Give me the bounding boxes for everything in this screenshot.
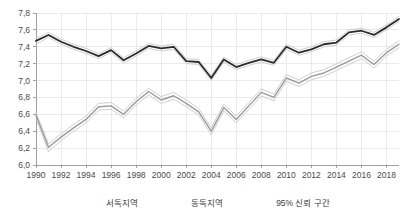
legend-item-west: 서독지역 (75, 196, 138, 208)
x-tick-label: 1994 (77, 170, 96, 180)
y-tick-label: 7,4 (18, 42, 30, 52)
x-axis-tick-labels: 1990199219941996199820002002200420062008… (27, 170, 397, 180)
x-tick-label: 2016 (352, 170, 371, 180)
confidence-bound-east-upper (36, 41, 399, 144)
x-tick-label: 1996 (102, 170, 121, 180)
x-tick-label: 2000 (152, 170, 171, 180)
legend-item-east: 동독지역 (160, 196, 223, 208)
legend-label-east: 동독지역 (191, 196, 223, 208)
y-tick-label: 6,0 (18, 160, 30, 170)
chart-legend: 서독지역 동독지역 95% 신뢰 구간 (0, 196, 405, 208)
x-tick-label: 1998 (127, 170, 146, 180)
y-tick-label: 6,6 (18, 109, 30, 119)
y-tick-label: 6,4 (18, 126, 30, 136)
y-tick-label: 7,2 (18, 59, 30, 69)
y-tick-label: 6,8 (18, 92, 30, 102)
line-chart: 6,06,26,46,66,87,07,27,47,67,8 199019921… (0, 0, 405, 214)
x-tick-label: 2004 (202, 170, 221, 180)
x-tick-label: 2012 (302, 170, 321, 180)
series-line-west (36, 19, 399, 78)
x-tick-label: 2008 (252, 170, 271, 180)
legend-label-confidence-interval: 95% 신뢰 구간 (276, 196, 330, 208)
y-tick-label: 7,8 (18, 8, 30, 18)
legend-label-west: 서독지역 (106, 196, 138, 208)
confidence-bound-west-lower (36, 21, 399, 80)
x-tick-label: 1992 (52, 170, 71, 180)
chart-plot-area: 6,06,26,46,66,87,07,27,47,67,8 199019921… (0, 0, 405, 214)
x-tick-label: 2006 (227, 170, 246, 180)
x-tick-label: 2018 (377, 170, 396, 180)
x-tick-label: 1990 (27, 170, 46, 180)
x-tick-label: 2002 (177, 170, 196, 180)
x-tick-label: 2014 (327, 170, 346, 180)
y-tick-label: 7,0 (18, 76, 30, 86)
y-tick-label: 7,6 (18, 25, 30, 35)
y-tick-label: 6,2 (18, 143, 30, 153)
legend-item-confidence-interval: 95% 신뢰 구간 (245, 196, 330, 208)
y-axis-tick-labels: 6,06,26,46,66,87,07,27,47,67,8 (18, 8, 30, 170)
x-tick-label: 2010 (277, 170, 296, 180)
